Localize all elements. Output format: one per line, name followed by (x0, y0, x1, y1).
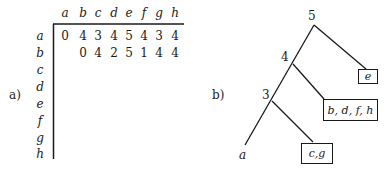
leaf-box-e: e (358, 69, 378, 84)
edge-3-cg (272, 101, 313, 142)
node-label-3: 3 (262, 89, 270, 101)
node-label-4: 4 (281, 51, 289, 63)
edge-4-bdfh (293, 64, 324, 99)
leaf-box-bdfh: b, d, f, h (323, 99, 378, 121)
node-label-5: 5 (308, 10, 316, 22)
leaf-label: c,g (309, 147, 326, 160)
leaf-label-a: a (239, 149, 246, 161)
leaf-label: e (365, 70, 372, 83)
leaf-box-cg: c,g (301, 143, 333, 164)
leaf-label: b, d, f, h (328, 104, 374, 117)
edge-5-a (245, 25, 314, 145)
panel-b-label: b) (212, 89, 224, 101)
edge-5-e (314, 25, 366, 69)
